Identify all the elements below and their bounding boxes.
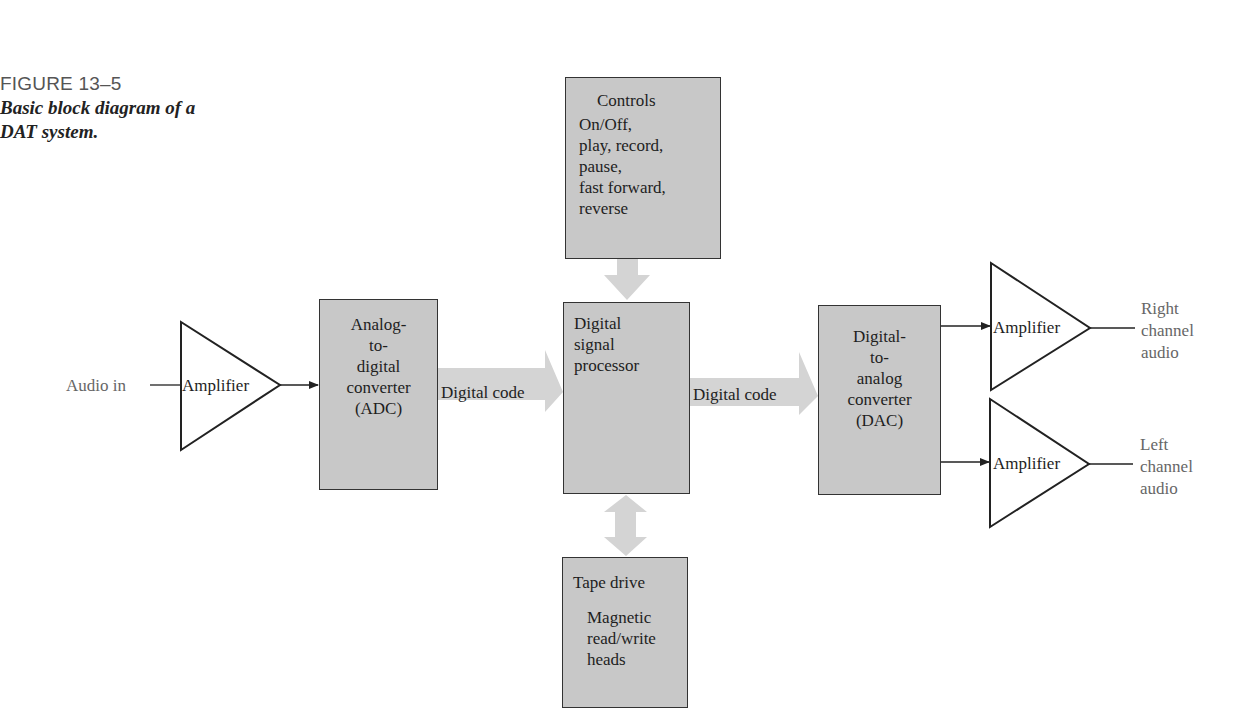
left-amplifier-label: Amplifier xyxy=(993,453,1060,474)
adc-block: Analog- to- digital converter (ADC) xyxy=(319,299,438,490)
left-channel-label-line: audio xyxy=(1140,478,1178,499)
dsp-line: processor xyxy=(574,355,689,376)
controls-line: reverse xyxy=(579,198,720,219)
right-channel-label-line: Right xyxy=(1141,298,1179,319)
dac-line: (DAC) xyxy=(819,410,940,431)
adc-line: digital xyxy=(320,356,437,377)
adc-line: Analog- xyxy=(320,314,437,335)
tape-drive-line: read/write xyxy=(573,628,687,649)
dac-line: Digital- xyxy=(819,326,940,347)
controls-block: Controls On/Off, play, record, pause, fa… xyxy=(565,77,721,259)
dac-block: Digital- to- analog converter (DAC) xyxy=(818,305,941,495)
dsp-line: Digital xyxy=(574,313,689,334)
right-channel-label-line: audio xyxy=(1141,342,1179,363)
adc-line: (ADC) xyxy=(320,398,437,419)
dac-line: analog xyxy=(819,368,940,389)
dsp-block: Digital signal processor xyxy=(563,302,690,494)
right-channel-label-line: channel xyxy=(1141,320,1194,341)
tape-drive-block: Tape drive Magnetic read/write heads xyxy=(562,557,688,708)
tape-drive-line: heads xyxy=(573,649,687,670)
audio-in-label: Audio in xyxy=(66,375,126,396)
left-channel-label-line: channel xyxy=(1140,456,1193,477)
tape-drive-title: Tape drive xyxy=(573,572,687,593)
adc-line: to- xyxy=(320,335,437,356)
dac-line: to- xyxy=(819,347,940,368)
adc-line: converter xyxy=(320,377,437,398)
dsp-to-dac-arrow-label: Digital code xyxy=(693,384,777,405)
tape-drive-line: Magnetic xyxy=(573,607,687,628)
controls-line: fast forward, xyxy=(579,177,720,198)
controls-line: play, record, xyxy=(579,135,720,156)
adc-to-dsp-arrow-label: Digital code xyxy=(441,382,525,403)
controls-title: Controls xyxy=(579,90,720,111)
controls-line: On/Off, xyxy=(579,114,720,135)
left-channel-label-line: Left xyxy=(1140,434,1168,455)
dsp-line: signal xyxy=(574,334,689,355)
right-amplifier-label: Amplifier xyxy=(993,317,1060,338)
input-amplifier-label: Amplifier xyxy=(182,375,249,396)
dsp-tape-bidirectional-arrow xyxy=(604,495,647,556)
dac-line: converter xyxy=(819,389,940,410)
controls-to-dsp-arrow xyxy=(604,258,650,300)
controls-line: pause, xyxy=(579,156,720,177)
